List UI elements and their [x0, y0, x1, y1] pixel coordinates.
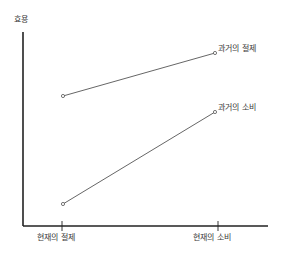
series-line-past-restraint [63, 53, 215, 96]
series-label-past-consumption: 과거의 소비 [218, 103, 256, 113]
y-axis-label: 효용 [14, 15, 28, 25]
point-past-restraint-right [213, 51, 216, 54]
x-label-present-consumption: 현재의 소비 [193, 233, 231, 243]
series-label-past-restraint: 과거의 절제 [218, 44, 256, 54]
utility-chart [0, 0, 283, 261]
series-line-past-consumption [63, 112, 215, 204]
point-past-consumption-left [61, 202, 64, 205]
x-label-present-restraint: 현재의 절제 [37, 233, 75, 243]
point-past-consumption-right [213, 110, 216, 113]
point-past-restraint-left [61, 94, 64, 97]
